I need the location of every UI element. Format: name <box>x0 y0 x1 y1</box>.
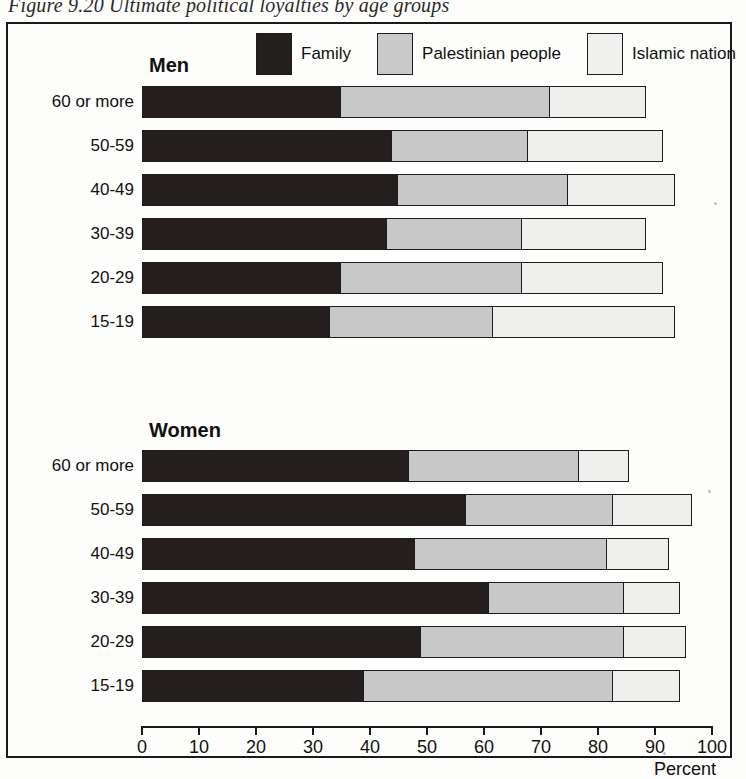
stacked-bar[interactable] <box>142 306 675 338</box>
bar-row: 15-19 <box>8 304 734 340</box>
bar-row-label: 20-29 <box>9 624 134 660</box>
bar-segment-family[interactable] <box>142 450 410 482</box>
x-axis-tick <box>540 726 542 735</box>
x-axis-title: Percent <box>654 759 716 779</box>
x-axis-tick-label: 80 <box>588 737 608 758</box>
bar-segment-islamic[interactable] <box>623 626 686 658</box>
bar-row-label: 15-19 <box>9 304 134 340</box>
bar-row: 30-39 <box>8 216 734 252</box>
x-axis-tick <box>597 726 599 735</box>
x-axis-tick-label: 40 <box>360 737 380 758</box>
x-axis-tick-label: 10 <box>189 737 209 758</box>
stacked-bar[interactable] <box>142 262 663 294</box>
x-axis-tick <box>369 726 371 735</box>
bar-row-label: 50-59 <box>9 128 134 164</box>
bar-row: 30-39 <box>8 580 734 616</box>
stacked-bar[interactable] <box>142 538 669 570</box>
scan-speck <box>708 490 711 493</box>
x-axis-tick <box>426 726 428 735</box>
scan-speck <box>714 202 717 205</box>
x-axis-tick-label: 100 <box>697 737 727 758</box>
x-axis-tick <box>198 726 200 735</box>
bar-row-label: 40-49 <box>9 536 134 572</box>
bar-segment-palestinian[interactable] <box>340 86 551 118</box>
x-axis-tick <box>312 726 314 735</box>
bar-row-label: 15-19 <box>9 668 134 704</box>
figure-caption: Figure 9.20 Ultimate political loyalties… <box>8 0 449 17</box>
bar-row: 60 or more <box>8 84 734 120</box>
bar-row-label: 30-39 <box>9 580 134 616</box>
bar-segment-palestinian[interactable] <box>488 582 625 614</box>
plot-area: 60 or more50-5940-4930-3920-2915-1960 or… <box>8 24 734 760</box>
bar-segment-family[interactable] <box>142 174 399 206</box>
x-axis-tick <box>654 726 656 735</box>
x-axis-tick <box>255 726 257 735</box>
bar-segment-family[interactable] <box>142 494 467 526</box>
bar-segment-islamic[interactable] <box>527 130 664 162</box>
bar-row: 40-49 <box>8 172 734 208</box>
bar-row-label: 20-29 <box>9 260 134 296</box>
x-axis-tick-label: 0 <box>137 737 147 758</box>
bar-segment-family[interactable] <box>142 86 342 118</box>
bar-row-label: 60 or more <box>9 448 134 484</box>
bar-row-label: 50-59 <box>9 492 134 528</box>
bar-segment-family[interactable] <box>142 262 342 294</box>
bar-segment-palestinian[interactable] <box>420 626 625 658</box>
stacked-bar[interactable] <box>142 626 686 658</box>
bar-segment-islamic[interactable] <box>612 494 692 526</box>
bar-segment-palestinian[interactable] <box>397 174 568 206</box>
stacked-bar[interactable] <box>142 218 646 250</box>
bar-row: 15-19 <box>8 668 734 704</box>
stacked-bar[interactable] <box>142 86 646 118</box>
bar-segment-family[interactable] <box>142 130 393 162</box>
x-axis-tick <box>711 726 713 735</box>
bar-segment-palestinian[interactable] <box>363 670 614 702</box>
bar-segment-islamic[interactable] <box>623 582 680 614</box>
bar-segment-family[interactable] <box>142 538 416 570</box>
bar-row-label: 60 or more <box>9 84 134 120</box>
bar-row: 20-29 <box>8 624 734 660</box>
x-axis-tick-label: 30 <box>303 737 323 758</box>
stacked-bar[interactable] <box>142 450 629 482</box>
bar-row: 50-59 <box>8 492 734 528</box>
scan-speck <box>663 752 666 755</box>
x-axis-tick-label: 90 <box>645 737 665 758</box>
x-axis-tick-label: 20 <box>246 737 266 758</box>
stacked-bar[interactable] <box>142 494 692 526</box>
bar-segment-palestinian[interactable] <box>408 450 579 482</box>
x-axis-tick-label: 60 <box>474 737 494 758</box>
bar-segment-palestinian[interactable] <box>386 218 523 250</box>
x-axis-tick-label: 70 <box>531 737 551 758</box>
stacked-bar[interactable] <box>142 582 680 614</box>
bar-segment-islamic[interactable] <box>492 306 674 338</box>
bar-row: 50-59 <box>8 128 734 164</box>
bar-row: 20-29 <box>8 260 734 296</box>
bar-segment-palestinian[interactable] <box>391 130 528 162</box>
bar-segment-palestinian[interactable] <box>340 262 522 294</box>
x-axis-tick-label: 50 <box>417 737 437 758</box>
stacked-bar[interactable] <box>142 174 675 206</box>
x-axis-tick <box>483 726 485 735</box>
stacked-bar[interactable] <box>142 670 680 702</box>
bar-segment-islamic[interactable] <box>567 174 675 206</box>
bar-segment-family[interactable] <box>142 306 330 338</box>
bar-segment-islamic[interactable] <box>606 538 669 570</box>
bar-segment-palestinian[interactable] <box>329 306 494 338</box>
bar-segment-islamic[interactable] <box>549 86 646 118</box>
bar-segment-family[interactable] <box>142 218 387 250</box>
bar-segment-family[interactable] <box>142 582 490 614</box>
bar-row: 60 or more <box>8 448 734 484</box>
x-axis-tick <box>141 726 143 735</box>
bar-segment-family[interactable] <box>142 670 364 702</box>
bar-segment-islamic[interactable] <box>521 262 664 294</box>
bar-segment-palestinian[interactable] <box>465 494 613 526</box>
bar-row: 40-49 <box>8 536 734 572</box>
bar-segment-islamic[interactable] <box>578 450 629 482</box>
bar-row-label: 30-39 <box>9 216 134 252</box>
bar-segment-islamic[interactable] <box>521 218 646 250</box>
bar-segment-islamic[interactable] <box>612 670 680 702</box>
bar-segment-family[interactable] <box>142 626 421 658</box>
stacked-bar[interactable] <box>142 130 663 162</box>
chart-frame: Family Palestinian people Islamic nation… <box>6 22 732 758</box>
bar-segment-palestinian[interactable] <box>414 538 608 570</box>
